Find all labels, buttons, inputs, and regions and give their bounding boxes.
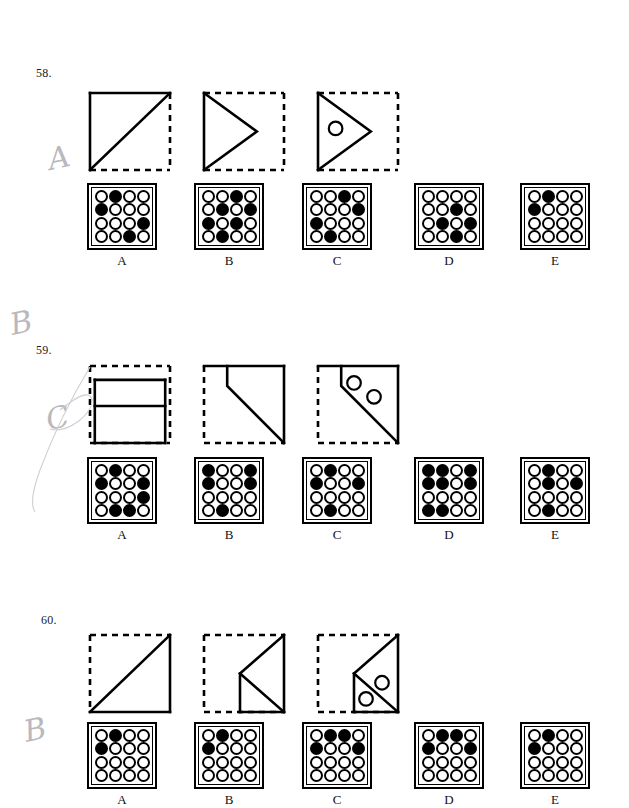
hole-circle-1 (375, 676, 389, 690)
dot-open (95, 464, 108, 477)
dot-open (324, 756, 337, 769)
dot-grid (91, 187, 153, 246)
dot-open (352, 729, 365, 742)
answer-option-d[interactable] (414, 183, 484, 250)
answer-option-e[interactable] (520, 183, 590, 250)
dot-open (230, 491, 243, 504)
dot-open (352, 491, 365, 504)
dot-open (338, 230, 351, 243)
dot-open (352, 217, 365, 230)
answer-option-a[interactable] (87, 722, 157, 789)
answer-option-c[interactable] (302, 183, 372, 250)
dot-open (528, 504, 541, 517)
dot-open (450, 769, 463, 782)
dot-open (324, 742, 337, 755)
dot-filled (310, 217, 323, 230)
question-number: 58. (36, 66, 52, 81)
dot-open (422, 491, 435, 504)
stimulus-figure-1 (87, 632, 173, 715)
dot-open (422, 217, 435, 230)
dot-filled (528, 742, 541, 755)
dot-open (436, 203, 449, 216)
stimulus-figure-2 (201, 632, 287, 715)
dot-open (202, 203, 215, 216)
dot-open (436, 230, 449, 243)
dot-open (464, 729, 477, 742)
dot-open (450, 190, 463, 203)
dot-filled (95, 203, 108, 216)
answer-option-c[interactable] (302, 722, 372, 789)
dot-open (528, 756, 541, 769)
dot-open (338, 769, 351, 782)
answer-option-b[interactable] (194, 457, 264, 524)
dot-filled (352, 742, 365, 755)
dot-open (95, 504, 108, 517)
dot-open (310, 504, 323, 517)
dot-open (109, 769, 122, 782)
dot-grid (418, 187, 480, 246)
answer-option-b[interactable] (194, 722, 264, 789)
dot-open (570, 230, 583, 243)
dot-open (123, 756, 136, 769)
dot-open (422, 203, 435, 216)
dot-grid (198, 461, 260, 520)
dot-open (422, 190, 435, 203)
option-label-a: A (102, 792, 142, 808)
dot-open (95, 190, 108, 203)
dot-open (464, 203, 477, 216)
dot-open (137, 464, 150, 477)
dot-open (109, 742, 122, 755)
dot-filled (422, 742, 435, 755)
dot-open (324, 217, 337, 230)
dot-filled (570, 477, 583, 490)
answer-option-d[interactable] (414, 457, 484, 524)
question-number: 60. (41, 613, 57, 628)
answer-option-d[interactable] (414, 722, 484, 789)
dot-open (464, 190, 477, 203)
dot-grid (306, 726, 368, 785)
dot-open (202, 756, 215, 769)
dot-open (528, 491, 541, 504)
dot-open (352, 769, 365, 782)
dot-open (95, 729, 108, 742)
dot-open (570, 217, 583, 230)
dot-filled (464, 742, 477, 755)
dot-open (137, 190, 150, 203)
dot-grid (524, 726, 586, 785)
dot-open (244, 190, 257, 203)
dot-open (95, 230, 108, 243)
dot-filled (95, 742, 108, 755)
dot-open (109, 203, 122, 216)
dot-open (109, 477, 122, 490)
option-label-c: C (317, 792, 357, 808)
answer-option-e[interactable] (520, 722, 590, 789)
dot-filled (542, 190, 555, 203)
stimulus-figure-3 (315, 632, 401, 715)
answer-option-e[interactable] (520, 457, 590, 524)
dot-open (216, 769, 229, 782)
dot-open (216, 464, 229, 477)
dot-open (216, 217, 229, 230)
dot-open (570, 203, 583, 216)
dot-open (123, 190, 136, 203)
dot-open (422, 230, 435, 243)
dot-filled (244, 203, 257, 216)
dot-open (230, 477, 243, 490)
dot-open (450, 491, 463, 504)
dot-open (244, 230, 257, 243)
dot-open (244, 742, 257, 755)
dot-open (310, 769, 323, 782)
answer-option-c[interactable] (302, 457, 372, 524)
dot-open (556, 190, 569, 203)
dot-open (244, 756, 257, 769)
dot-open (570, 190, 583, 203)
answer-option-b[interactable] (194, 183, 264, 250)
option-label-b: B (209, 253, 249, 269)
dot-open (570, 769, 583, 782)
dot-open (422, 769, 435, 782)
dot-open (422, 756, 435, 769)
dot-grid (91, 726, 153, 785)
answer-option-a[interactable] (87, 183, 157, 250)
answer-option-a[interactable] (87, 457, 157, 524)
dot-open (95, 491, 108, 504)
